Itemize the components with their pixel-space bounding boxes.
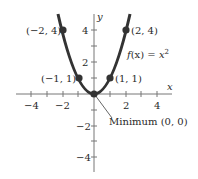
label-minimum: Minimum (0, 0) <box>109 116 188 127</box>
tick-x-2: 2 <box>123 100 129 111</box>
point-neg1-1 <box>75 74 82 81</box>
tick-x-4: 4 <box>154 100 160 111</box>
tick-x-neg4: −4 <box>24 100 39 111</box>
point-2-4 <box>122 26 129 33</box>
y-axis-label: y <box>96 11 103 22</box>
function-args: (x) = <box>131 49 159 60</box>
tick-y-4: 4 <box>82 25 88 36</box>
tick-y-neg2: −2 <box>76 121 91 132</box>
label-neg1-1: (−1, 1) <box>41 73 76 84</box>
point-1-1 <box>106 74 113 81</box>
minimum-leader-line <box>95 95 112 118</box>
tick-x-neg2: −2 <box>55 100 70 111</box>
parabola-chart: −4 −2 2 4 4 2 −2 −4 x y (−2, 4) (2, 4) (… <box>0 0 198 179</box>
label-2-4: (2, 4) <box>131 25 158 36</box>
tick-y-neg4: −4 <box>76 152 91 163</box>
function-label: f(x) = x2 <box>126 48 169 60</box>
point-minimum <box>90 90 97 97</box>
x-axis-label: x <box>167 81 173 92</box>
label-1-1: (1, 1) <box>115 73 142 84</box>
function-exponent: 2 <box>165 48 169 56</box>
label-neg2-4: (−2, 4) <box>26 25 61 36</box>
tick-y-2: 2 <box>82 57 88 68</box>
